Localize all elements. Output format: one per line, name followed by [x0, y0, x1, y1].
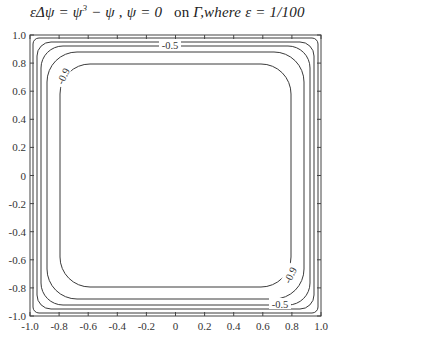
contour-label: -0.5 [162, 40, 179, 51]
x-tick-label: 0.6 [256, 320, 270, 332]
contour-plot: -1.0-0.8-0.6-0.4-0.200.20.40.60.81.0 1.0… [0, 0, 426, 346]
y-tick-label: 0.8 [12, 57, 26, 69]
y-tick-label: 0.6 [12, 85, 26, 97]
x-tick-label: 0 [173, 320, 179, 332]
x-tick-label: 1.0 [314, 320, 328, 332]
y-tick-label: 0.4 [12, 113, 26, 125]
x-tick-label: 0.4 [227, 320, 241, 332]
x-tick-label: -0.6 [79, 320, 97, 332]
contour-line [41, 46, 310, 305]
x-tick-label: -0.4 [109, 320, 127, 332]
contour-labels: -0.5-0.9-0.9-0.5 [53, 39, 299, 310]
contour-line [37, 42, 314, 309]
x-tick-label: 0.2 [198, 320, 212, 332]
x-tick-label: -0.2 [138, 320, 155, 332]
plot-frame [30, 35, 321, 316]
contour-lines [33, 38, 318, 313]
contour-line [33, 38, 318, 313]
y-tick-label: -0.8 [9, 282, 27, 294]
y-tick-label: 1.0 [12, 29, 26, 41]
y-tick-label: -1.0 [9, 310, 27, 322]
y-tick-label: -0.2 [9, 198, 26, 210]
contour-line [47, 52, 304, 299]
x-tick-label: -0.8 [50, 320, 68, 332]
contour-label: -0.5 [272, 299, 289, 310]
y-tick-label: -0.4 [9, 226, 27, 238]
y-tick-label: -0.6 [9, 254, 27, 266]
y-axis: 1.00.80.60.40.20-0.2-0.4-0.6-0.8-1.0 [9, 29, 321, 322]
x-tick-label: 0.8 [285, 320, 299, 332]
contour-line [60, 64, 291, 287]
y-tick-label: 0 [21, 170, 27, 182]
y-tick-label: 0.2 [12, 141, 26, 153]
